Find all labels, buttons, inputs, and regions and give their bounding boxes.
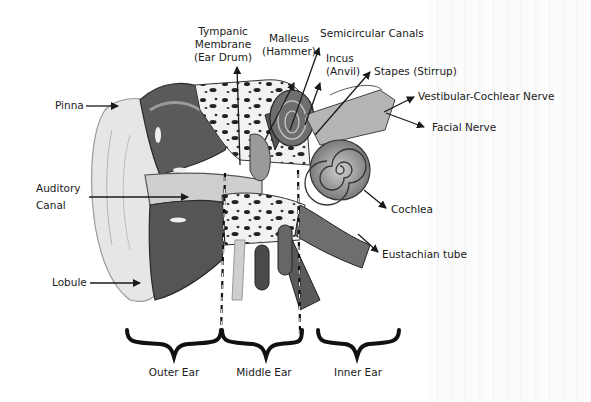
label-semicircular-canals: Semicircular Canals [320,27,424,40]
label-incus-line2: (Anvil) [326,65,360,78]
section-inner-ear: Inner Ear [308,366,408,378]
label-vestibular-cochlear-nerve: Vestibular-Cochlear Nerve [418,90,554,103]
label-cochlea: Cochlea [391,203,433,216]
label-facial-nerve: Facial Nerve [432,121,496,134]
label-lobule: Lobule [52,276,87,289]
section-outer-ear: Outer Ear [124,366,224,378]
label-tympanic-line1: Tympanic [190,25,256,38]
label-tympanic-line3: (Ear Drum) [190,51,256,64]
label-pinna: Pinna [55,99,84,112]
label-malleus-line1: Malleus [261,32,317,45]
section-middle-ear: Middle Ear [214,366,314,378]
label-incus-line1: Incus [326,52,354,65]
label-eustachian-tube: Eustachian tube [382,248,467,261]
cochlea-shape [305,140,370,205]
ear-anatomy-illustration [0,0,591,402]
label-auditory-canal-line2: Canal [36,199,66,212]
label-tympanic-line2: Membrane [190,38,256,51]
label-auditory-canal-line1: Auditory [36,182,81,195]
label-malleus-line2: (Hammer) [261,45,317,58]
section-braces [127,330,399,357]
label-stapes: Stapes (Stirrup) [374,65,457,78]
